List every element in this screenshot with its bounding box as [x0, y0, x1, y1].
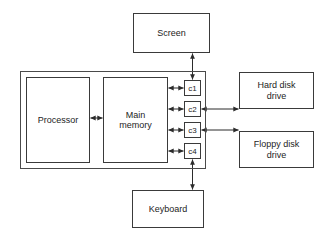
- controller-c4-label: c4: [188, 147, 196, 156]
- controller-c1: c1: [184, 80, 201, 96]
- hard-disk-drive-box: Hard disk drive: [239, 72, 314, 109]
- main-memory-box: Main memory: [103, 77, 168, 163]
- hard-disk-drive-label: Hard disk drive: [257, 80, 295, 101]
- processor-box: Processor: [26, 77, 90, 163]
- keyboard-box: Keyboard: [132, 190, 204, 228]
- controller-c3-label: c3: [188, 126, 196, 135]
- screen-box: Screen: [133, 13, 210, 53]
- controller-c1-label: c1: [188, 84, 196, 93]
- screen-label: Screen: [157, 28, 186, 38]
- controller-c3: c3: [184, 122, 201, 138]
- controller-c2: c2: [184, 101, 201, 117]
- keyboard-label: Keyboard: [149, 204, 188, 214]
- diagram-canvas: Processor Main memory c1 c2 c3 c4 Screen…: [0, 0, 329, 244]
- floppy-disk-drive-box: Floppy disk drive: [239, 131, 314, 168]
- controller-c2-label: c2: [188, 105, 196, 114]
- main-memory-label: Main memory: [119, 110, 152, 131]
- floppy-disk-drive-label: Floppy disk drive: [254, 139, 300, 160]
- controller-c4: c4: [184, 143, 201, 159]
- processor-label: Processor: [38, 115, 79, 125]
